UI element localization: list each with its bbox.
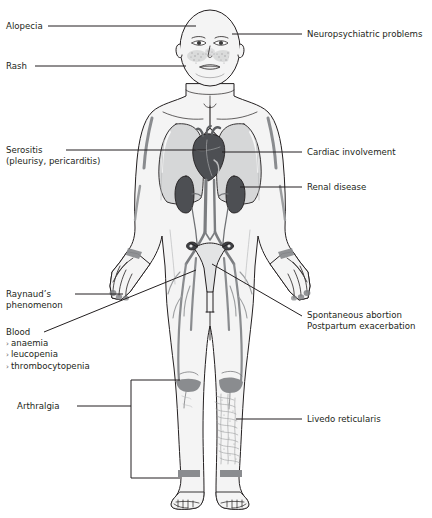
bullet-glyph: › [6,350,9,359]
label-raynauds-sub: phenomenon [6,300,63,311]
label-neuropsychiatric-text: Neuropsychiatric problems [307,29,422,39]
label-serositis-text: Serositis [6,145,100,156]
blood-findings-list: ›anaemia ›leucopenia ›thrombocytopenia [6,338,90,373]
list-item: ›leucopenia [6,349,90,361]
diagram-canvas: Alopecia Rash Serositis (pleurisy, peric… [0,0,432,518]
blood-item-leucopenia: leucopenia [11,349,58,359]
label-alopecia: Alopecia [6,21,43,32]
leader-arthralgia-bracket [77,380,180,478]
label-arthralgia-text: Arthralgia [17,401,60,411]
label-spontaneous-abortion-text: Spontaneous abortion [307,310,415,321]
bullet-glyph: › [6,362,9,371]
label-blood-heading: Blood [6,327,90,338]
label-rash-text: Rash [6,61,27,71]
label-raynauds-text: Raynaud’s [6,289,63,300]
label-alopecia-text: Alopecia [6,21,43,31]
label-arthralgia: Arthralgia [17,401,60,412]
label-renal: Renal disease [307,182,366,193]
blood-item-thrombocytopenia: thrombocytopenia [11,361,90,371]
label-pregnancy: Spontaneous abortion Postpartum exacerba… [307,310,415,331]
label-cardiac-text: Cardiac involvement [307,147,396,157]
label-livedo: Livedo reticularis [307,414,381,425]
label-raynauds: Raynaud’s phenomenon [6,289,63,310]
list-item: ›anaemia [6,338,90,350]
list-item: ›thrombocytopenia [6,361,90,373]
label-postpartum-exacerbation-text: Postpartum exacerbation [307,321,415,332]
blood-item-anaemia: anaemia [11,338,48,348]
label-serositis-sub: (pleurisy, pericarditis) [6,156,100,167]
label-blood: Blood ›anaemia ›leucopenia ›thrombocytop… [6,327,90,373]
label-serositis: Serositis (pleurisy, pericarditis) [6,145,100,166]
label-rash: Rash [6,61,27,72]
label-renal-text: Renal disease [307,182,366,192]
label-neuropsychiatric: Neuropsychiatric problems [307,29,422,40]
body-figure [0,0,432,518]
bullet-glyph: › [6,339,9,348]
label-cardiac: Cardiac involvement [307,147,396,158]
label-livedo-text: Livedo reticularis [307,414,381,424]
